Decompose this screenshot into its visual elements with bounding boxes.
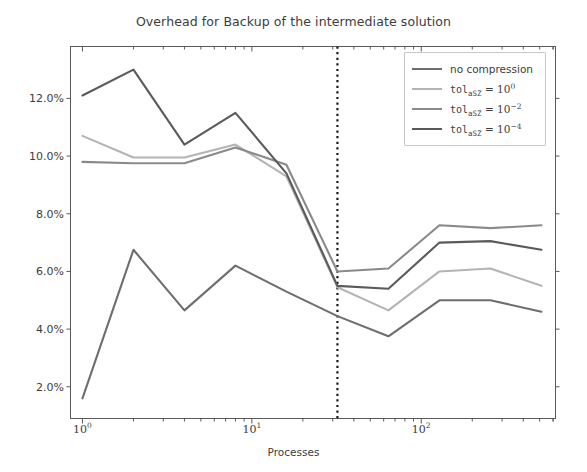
legend-item-tol-1e-2: tolaSZ = 10−2: [412, 99, 538, 119]
figure: Overhead for Backup of the intermediate …: [0, 0, 587, 472]
legend-label-tol-1e0: tolaSZ = 100: [450, 83, 515, 95]
legend-item-tol-1e0: tolaSZ = 100: [412, 79, 538, 99]
legend-item-no-compression: no compression: [412, 59, 538, 79]
legend-item-tol-1e-4: tolaSZ = 10−4: [412, 119, 538, 139]
legend-swatch-no-compression: [412, 68, 442, 70]
x-axis-label: Processes: [0, 446, 587, 458]
legend-label-tol-1e-2: tolaSZ = 10−2: [450, 103, 522, 115]
legend-swatch-tol-1e0: [412, 88, 442, 90]
legend: no compression tolaSZ = 100 tolaSZ = 10−…: [404, 52, 546, 146]
legend-label-tol-1e-4: tolaSZ = 10−4: [450, 123, 522, 135]
legend-label-no-compression: no compression: [450, 63, 533, 75]
legend-swatch-tol-1e-4: [412, 128, 442, 130]
legend-swatch-tol-1e-2: [412, 108, 442, 110]
